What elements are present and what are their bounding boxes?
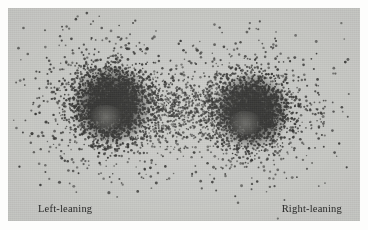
scatter-plot-panel: Left-leaning Right-leaning [8,8,360,221]
scatter-points-canvas [8,8,360,221]
axis-label-left-leaning: Left-leaning [38,203,92,214]
figure-container: Left-leaning Right-leaning [0,0,368,230]
axis-label-right-leaning: Right-leaning [282,203,342,214]
